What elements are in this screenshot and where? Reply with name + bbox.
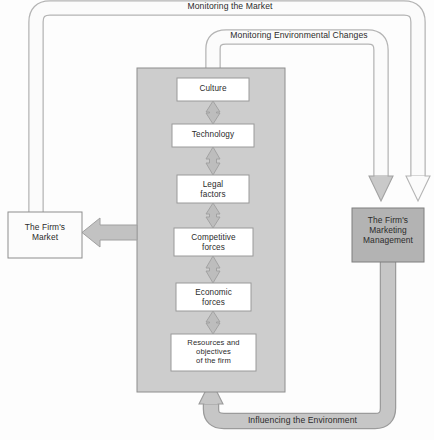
diagram-canvas: Monitoring the Market Monitoring Environ… [0,0,434,440]
marketing-management-line-2: Marketing [369,225,407,235]
band-label-monitoring-the-market: Monitoring the Market [140,1,320,11]
competitive-forces-line-2: forces [202,243,225,252]
environment-box-label-competitive-forces: Competitive forces [174,233,253,252]
environment-box-label-culture: Culture [177,84,249,94]
resources-objectives-line-3: of the firm [196,356,231,365]
environment-box-label-resources-objectives: Resources and objectives of the firm [171,339,256,366]
band-label-influencing-the-environment: Influencing the Environment [215,415,390,425]
firms-marketing-management-label: The Firm's Marketing Management [352,216,424,246]
firms-market-line-2: Market [32,232,58,242]
firms-market-label: The Firm's Market [8,223,82,243]
legal-factors-line-1: Legal [203,180,224,189]
environment-box-label-legal-factors: Legal factors [177,180,249,199]
firms-market-line-1: The Firm's [25,222,65,232]
resources-objectives-line-2: objectives [196,347,231,356]
marketing-management-line-1: The Firm's [368,215,408,225]
marketing-management-line-3: Management [363,235,413,245]
competitive-forces-line-1: Competitive [191,233,235,242]
resources-objectives-line-1: Resources and [187,338,239,347]
environment-box-label-technology: Technology [172,130,254,140]
economic-forces-line-1: Economic [195,288,232,297]
legal-factors-line-2: factors [200,190,225,199]
band-label-monitoring-environmental-changes: Monitoring Environmental Changes [214,30,384,40]
arrow-panel-to-firms-market [82,218,137,247]
economic-forces-line-2: forces [202,298,225,307]
environment-box-label-economic-forces: Economic forces [176,288,251,307]
